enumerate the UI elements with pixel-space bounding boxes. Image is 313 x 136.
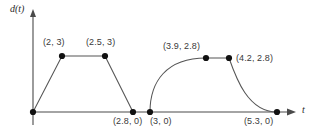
x-axis-label: t [302, 105, 305, 115]
point-label-39-28: (3.9, 2.8) [163, 42, 200, 51]
data-point-39-28 [203, 55, 209, 61]
point-label-53-0: (5.3, 0) [244, 117, 273, 126]
data-point-origin [30, 109, 36, 115]
figure-canvas: d(t) t (2, 3) (2.5, 3) (2.8, 0) (3, 0) (… [0, 0, 313, 136]
data-point-25-3 [102, 53, 108, 59]
x-axis-arrowhead [287, 109, 296, 116]
y-axis-label: d(t) [10, 4, 24, 14]
data-point-2-3 [59, 53, 65, 59]
point-label-25-3: (2.5, 3) [86, 38, 115, 47]
point-label-42-28: (4.2, 2.8) [236, 54, 273, 63]
trapezoid-pulse-path [33, 56, 133, 112]
data-point-42-28 [226, 55, 232, 61]
data-point-53-0 [274, 109, 280, 115]
point-label-2-3: (2, 3) [43, 38, 65, 47]
data-point-28-0 [130, 109, 136, 115]
y-axis-arrowhead [30, 9, 36, 17]
data-point-3-0 [147, 109, 153, 115]
curved-pulse-path [150, 58, 277, 112]
point-label-3-0: (3, 0) [150, 117, 172, 126]
point-label-28-0: (2.8, 0) [113, 117, 142, 126]
